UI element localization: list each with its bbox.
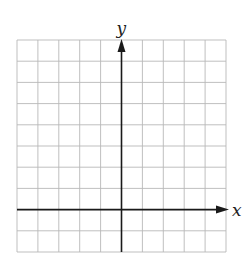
coordinate-grid: x y [0,0,250,261]
y-axis-arrow-icon [118,39,126,52]
y-axis-label: y [116,18,127,38]
x-axis-arrow-icon [216,206,229,214]
axes [17,39,229,252]
x-axis-label: x [232,200,242,220]
